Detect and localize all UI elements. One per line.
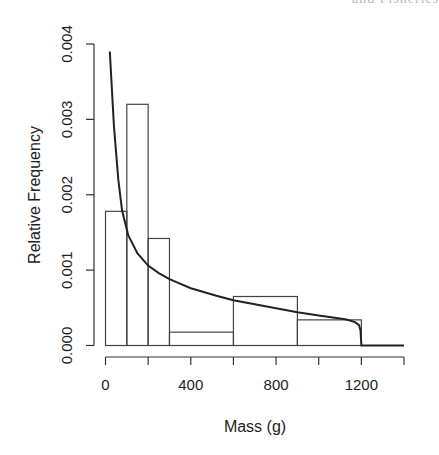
x-tick-label: 400 <box>178 376 203 393</box>
x-tick-label: 1200 <box>345 376 378 393</box>
y-tick-label: 0.003 <box>58 101 75 139</box>
histogram-bar-1 <box>127 104 148 345</box>
y-axis: 0.0000.0010.0020.0030.004 <box>58 25 94 364</box>
y-tick-label: 0.002 <box>58 176 75 214</box>
y-axis-title: Relative Frequency <box>26 126 43 264</box>
density-curve <box>110 52 404 346</box>
x-tick-label: 800 <box>264 376 289 393</box>
histogram-bar-2 <box>148 238 169 345</box>
x-axis-title: Mass (g) <box>224 418 286 435</box>
y-tick-label: 0.000 <box>58 327 75 365</box>
x-axis: 04008001200 <box>101 357 404 393</box>
x-tick-label: 0 <box>101 376 109 393</box>
histogram-bar-4 <box>233 297 297 346</box>
histogram-bars <box>106 104 362 345</box>
histogram-bar-3 <box>169 332 233 345</box>
histogram-bar-0 <box>106 211 127 345</box>
y-tick-label: 0.004 <box>58 25 75 63</box>
y-tick-label: 0.001 <box>58 251 75 289</box>
histogram-bar-5 <box>297 320 361 346</box>
